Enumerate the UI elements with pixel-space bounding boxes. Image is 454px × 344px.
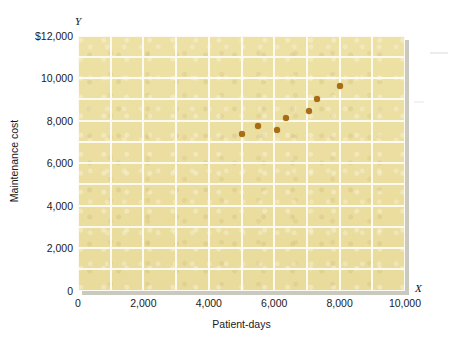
data-point [239,131,245,137]
gridline-horizontal [78,268,405,270]
gridline-horizontal [78,226,405,228]
y-tick-label: 8,000 [47,115,73,127]
x-tick-label: 0 [75,297,81,309]
scatter-chart-figure: 02,0004,0006,0008,00010,000$12,000 02,00… [0,0,454,344]
y-tick-label: 10,000 [41,72,73,84]
data-point [255,123,261,129]
gridline-horizontal [78,98,405,100]
y-tick-label: $12,000 [35,30,73,42]
data-point [306,108,312,114]
x-tick-label: 8,000 [326,297,352,309]
plot-area [78,36,405,291]
scan-artifact-1 [430,52,448,54]
y-axis-title: Maintenance cost [8,106,20,216]
gridline-horizontal [78,120,405,122]
x-tick-label: 10,000 [389,297,421,309]
x-tick-label: 2,000 [130,297,156,309]
gridline-horizontal [78,290,405,291]
data-point [337,83,343,89]
y-tick-label: 2,000 [47,242,73,254]
x-axis-symbol: X [415,282,422,294]
x-axis-title: Patient-days [78,318,405,330]
y-tick-label: 0 [67,285,73,297]
gridline-horizontal [78,205,405,207]
gridline-horizontal [78,36,405,37]
data-point [274,127,280,133]
gridline-horizontal [78,162,405,164]
y-axis-symbol: Y [75,15,81,27]
y-tick-label: 6,000 [47,157,73,169]
y-tick-label: 4,000 [47,200,73,212]
x-tick-label: 4,000 [196,297,222,309]
gridline-horizontal [78,141,405,143]
gridline-horizontal [78,77,405,79]
gridline-horizontal [78,183,405,185]
gridline-horizontal [78,247,405,249]
scan-artifact-2 [414,101,424,103]
x-tick-label: 6,000 [261,297,287,309]
data-point [314,96,320,102]
gridline-horizontal [78,56,405,58]
